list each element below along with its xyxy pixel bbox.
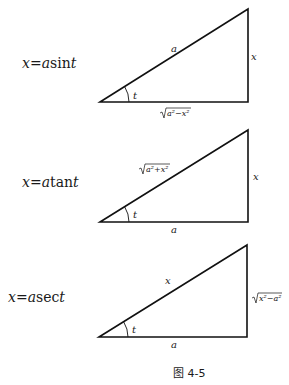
right-triangle	[100, 9, 248, 102]
figure-caption: 图 4-5	[173, 367, 205, 380]
angle-label: t	[132, 324, 137, 335]
angle-label: t	[133, 90, 138, 101]
equation-sec: x=asect	[8, 289, 65, 305]
equation-sin: x=asint	[22, 55, 77, 71]
right-triangle	[100, 130, 248, 222]
panel-tan: x=atant t a²+x² x a	[22, 130, 259, 235]
horizontal-label-sqrt: a²−x²	[160, 108, 191, 118]
hypotenuse-radicand: a²+x²	[146, 165, 168, 174]
horizontal-radicand: a²−x²	[167, 109, 189, 118]
vertical-label: x	[253, 171, 259, 182]
hypotenuse-label-sqrt: a²+x²	[139, 164, 170, 174]
equation-tan: x=atant	[22, 174, 79, 190]
figure-4-5: x=asint t a x a²−x² x=atant t a²+x² x a …	[0, 0, 289, 385]
panel-sec: x=asect t x x²−a² a	[8, 245, 282, 350]
vertical-radicand: x²−a²	[259, 294, 281, 303]
angle-arc	[125, 87, 129, 103]
panel-sin: x=asint t a x a²−x²	[22, 9, 257, 118]
horizontal-label: a	[171, 339, 177, 350]
right-triangle	[99, 245, 247, 337]
hypotenuse-label: a	[171, 43, 177, 54]
vertical-label-sqrt: x²−a²	[252, 293, 282, 303]
angle-arc	[124, 322, 128, 337]
angle-arc	[125, 207, 129, 222]
vertical-label: x	[251, 51, 257, 62]
horizontal-label: a	[171, 224, 177, 235]
angle-label: t	[133, 209, 138, 220]
hypotenuse-label: x	[165, 275, 171, 286]
